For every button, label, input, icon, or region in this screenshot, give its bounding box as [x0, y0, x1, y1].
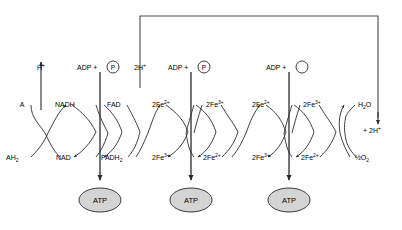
phosphate-circle-3 [296, 61, 308, 73]
svg-text:H2O: H2O [358, 101, 372, 110]
diagram-canvas: ATP ATP ATP H+ ADP + P 2H+ ADP + [0, 0, 402, 230]
atp-node-2: ATP [170, 188, 212, 212]
svg-text:2Fe3+: 2Fe3+ [252, 152, 270, 161]
atp-node-3: ATP [268, 188, 310, 212]
upper-sup-4: 3+ [218, 99, 224, 105]
upper-label-4: 2Fe [206, 101, 218, 108]
adp-2-text: ADP + [168, 64, 188, 71]
upper-label-0: A [20, 101, 25, 108]
svg-text:2Fe2+: 2Fe2+ [203, 152, 221, 161]
label-two-protons: 2H+ [134, 62, 146, 71]
upper-sup-5: 2+ [264, 99, 270, 105]
lower-label-4: 2Fe [203, 154, 215, 161]
atp-node-1: ATP [79, 188, 121, 212]
two-h-sup: + [143, 62, 146, 68]
adp-1-text: ADP + [77, 64, 97, 71]
svg-text:2Fe2+: 2Fe2+ [152, 99, 170, 108]
label-right-protons: +2H+ [363, 125, 381, 134]
lower-sup-5: 3+ [264, 152, 270, 158]
svg-text:NADH: NADH [55, 101, 75, 108]
svg-text:AH2: AH2 [6, 154, 19, 163]
svg-text:2Fe3+: 2Fe3+ [206, 99, 224, 108]
upper-label-1: NADH [55, 101, 75, 108]
svg-text:A: A [20, 101, 25, 108]
water-tail: O [366, 101, 372, 108]
svg-text:2Fe2+: 2Fe2+ [301, 152, 319, 161]
phosphate-label-1: P [111, 64, 115, 71]
right-proton-text: 2H [369, 127, 378, 134]
label-adp-1: ADP + P [77, 61, 119, 73]
redox-loop-7 [319, 105, 356, 157]
proton-out-sup: + [42, 62, 45, 68]
label-adp-3: ADP + [266, 61, 308, 73]
svg-text:2Fe3+: 2Fe3+ [303, 99, 321, 108]
etc-diagram-svg: ATP ATP ATP H+ ADP + P 2H+ ADP + [0, 0, 402, 230]
oxygen-label: ½O [355, 154, 367, 161]
svg-text:H+: H+ [37, 62, 45, 71]
phosphate-label-2: P [202, 64, 206, 71]
upper-label-3: 2Fe [152, 101, 164, 108]
atp-synthesis-lines [100, 72, 289, 180]
atp-label-1: ATP [93, 196, 107, 205]
upper-label-5: 2Fe [252, 101, 264, 108]
svg-text:FADH2: FADH2 [101, 154, 123, 163]
lower-sup-6: 2+ [313, 152, 319, 158]
oxygen-sub: 2 [366, 157, 369, 163]
upper-sup-6: 3+ [315, 99, 321, 105]
two-h-text: 2H [134, 64, 143, 71]
lower-label-6: 2Fe [301, 154, 313, 161]
atp-label-3: ATP [282, 196, 296, 205]
upper-sup-3: 2+ [164, 99, 170, 105]
right-proton-sup: + [378, 125, 381, 131]
lower-sup-3: 3+ [164, 152, 170, 158]
svg-text:NAD: NAD [56, 154, 71, 161]
lower-row-labels: AH2 NAD FADH2 2Fe3+ 2Fe2+ 2Fe3+ 2Fe2+ ½O… [6, 152, 369, 163]
label-proton-out: H+ [37, 62, 45, 71]
upper-label-2: FAD [107, 101, 121, 108]
upper-label-6: 2Fe [303, 101, 315, 108]
lower-label-2: FADH [101, 154, 120, 161]
svg-text:FAD: FAD [107, 101, 121, 108]
upper-row-labels: A NADH FAD 2Fe2+ 2Fe3+ 2Fe2+ 2Fe3+ H2O [20, 99, 372, 110]
lower-label-3: 2Fe [152, 154, 164, 161]
lower-sub-2: 2 [120, 157, 123, 163]
redox-loop-1 [31, 105, 96, 157]
label-adp-2: ADP + P [168, 61, 210, 73]
lower-sub-0: 2 [16, 157, 19, 163]
redox-loop-5 [221, 105, 260, 157]
redox-loop-3 [127, 105, 160, 157]
svg-text:½O2: ½O2 [355, 154, 369, 163]
lower-label-0: AH [6, 154, 16, 161]
adp-3-text: ADP + [266, 64, 286, 71]
svg-text:2H+: 2H+ [134, 62, 146, 71]
svg-text:2Fe3+: 2Fe3+ [152, 152, 170, 161]
redox-loop-6 [266, 105, 314, 157]
lower-label-5: 2Fe [252, 154, 264, 161]
right-proton-prefix: + [363, 127, 367, 134]
atp-label-2: ATP [184, 196, 198, 205]
svg-text:2Fe2+: 2Fe2+ [252, 99, 270, 108]
lower-label-1: NAD [56, 154, 71, 161]
svg-text:+2H+: +2H+ [363, 125, 381, 134]
lower-sup-4: 2+ [215, 152, 221, 158]
